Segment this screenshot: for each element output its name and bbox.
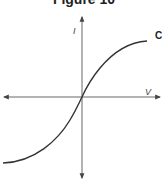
curve-label: C <box>155 30 162 41</box>
iv-diagram: I V C <box>0 0 168 181</box>
x-axis-label: V <box>145 87 152 97</box>
curve-c <box>3 41 147 163</box>
y-axis-label: I <box>73 26 76 36</box>
